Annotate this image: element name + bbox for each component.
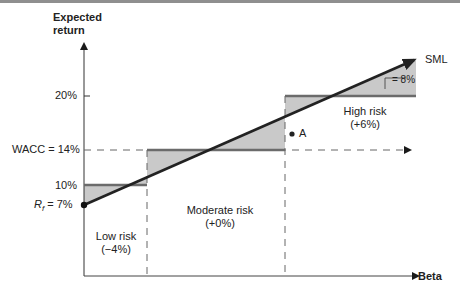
- y-tick-10: 10%: [55, 179, 77, 192]
- y-axis-title-line2: return: [53, 24, 85, 37]
- y-tick-20: 20%: [55, 89, 77, 102]
- moderate-risk-name: Moderate risk: [170, 204, 270, 217]
- sml-line: [84, 60, 414, 205]
- low-risk-adjustment: (−4%): [88, 243, 144, 256]
- rf-symbol: R: [34, 198, 42, 210]
- y-tick-risk-free: Rf = 7%: [34, 198, 73, 215]
- moderate-risk-adjustment: (+0%): [170, 217, 270, 230]
- y-axis-title-line1: Expected: [53, 11, 102, 24]
- high-risk-adjustment: (+6%): [332, 118, 398, 131]
- slope-note: = 8%: [392, 73, 415, 86]
- point-a-marker: [289, 131, 294, 136]
- sml-label: SML: [425, 53, 448, 66]
- high-risk-name: High risk: [332, 105, 398, 118]
- x-axis-title: Beta: [418, 270, 442, 283]
- rf-value: = 7%: [44, 198, 72, 210]
- risk-free-point: [81, 202, 87, 208]
- low-risk-name: Low risk: [88, 230, 144, 243]
- y-tick-wacc: WACC = 14%: [12, 143, 80, 156]
- point-a-label: A: [299, 127, 306, 140]
